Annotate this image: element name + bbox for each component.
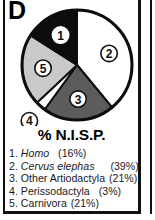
chart-title: % N.I.S.P. xyxy=(5,126,138,143)
marker-number-4: 4 xyxy=(26,114,33,126)
pie-slice-marker-4: 4 xyxy=(21,113,37,126)
pie-chart: 23451 xyxy=(8,4,136,126)
frame-border-right-outer xyxy=(150,0,152,214)
legend-item-percent: (21%) xyxy=(67,197,99,209)
legend-item: 3.Other Artiodactyla(21%) xyxy=(9,172,139,185)
legend-item-number: 5. xyxy=(9,197,18,209)
frame-border-left xyxy=(3,0,5,214)
legend-item-label: Carnivora xyxy=(18,197,67,209)
figure-panel: D 23451 % N.I.S.P. 1.Homo(16%) 2.Cervus … xyxy=(0,0,155,220)
pie-slice-marker-5: 5 xyxy=(35,60,51,76)
legend-item: 5.Carnivora(21%) xyxy=(9,197,139,210)
legend-item-label: Other Artiodactyla xyxy=(18,172,105,184)
legend-item: 4.Perissodactyla(3%) xyxy=(9,185,139,198)
legend-item-percent: (3%) xyxy=(90,185,121,197)
pie-slice-marker-2: 2 xyxy=(101,45,117,61)
pie-slice-marker-3: 3 xyxy=(70,91,86,107)
frame-border-bottom xyxy=(3,211,141,214)
pie-slice-marker-1: 1 xyxy=(52,27,68,43)
marker-number-2: 2 xyxy=(106,47,113,61)
legend-item-number: 2. xyxy=(9,160,18,172)
marker-number-5: 5 xyxy=(40,62,47,76)
legend-item-label: Homo xyxy=(18,147,49,159)
legend: 1.Homo(16%) 2.Cervus elephas(39%) 3.Othe… xyxy=(9,147,139,210)
legend-item-number: 4. xyxy=(9,185,18,197)
legend-item-percent: (21%) xyxy=(105,172,137,184)
legend-item-label: Perissodactyla xyxy=(18,185,90,197)
legend-item-percent: (16%) xyxy=(49,147,86,159)
marker-number-3: 3 xyxy=(75,93,82,107)
legend-item-percent: (39%) xyxy=(94,160,138,172)
legend-item-label: Cervus elephas xyxy=(18,160,95,172)
legend-item-number: 3. xyxy=(9,172,18,184)
legend-item: 1.Homo(16%) xyxy=(9,147,139,160)
legend-item-number: 1. xyxy=(9,147,18,159)
pie-chart-svg: 23451 xyxy=(8,4,136,126)
legend-item: 2.Cervus elephas(39%) xyxy=(9,160,139,173)
marker-number-1: 1 xyxy=(57,29,64,43)
